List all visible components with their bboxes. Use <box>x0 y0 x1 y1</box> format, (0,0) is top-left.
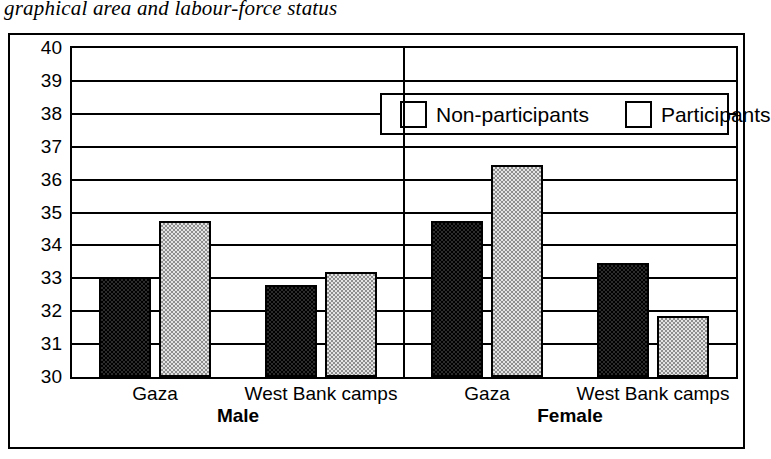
y-axis-tick-label: 37 <box>22 137 62 156</box>
group-label: Male <box>217 405 259 426</box>
chart-legend: Non-participants Participants <box>380 93 729 135</box>
bar <box>159 221 211 377</box>
light-swatch-icon <box>625 101 652 128</box>
category-label: Gaza <box>464 383 509 404</box>
y-axis-tick-label: 34 <box>22 235 62 254</box>
y-axis-tick-label: 30 <box>22 367 62 386</box>
y-axis: 4039383736353433323130 <box>14 46 62 379</box>
bar <box>657 316 709 377</box>
figure-caption: graphical area and labour-force status <box>4 0 337 21</box>
figure-frame: 4039383736353433323130 GazaWest Bank cam… <box>8 33 745 449</box>
category-labels: GazaWest Bank campsGazaWest Bank camps <box>70 383 738 405</box>
panel-divider <box>403 48 405 377</box>
category-label: Gaza <box>132 383 177 404</box>
bar <box>431 221 483 377</box>
bar <box>265 285 317 377</box>
y-axis-tick-label: 39 <box>22 71 62 90</box>
legend-item-participants: Participants <box>625 95 771 133</box>
bar <box>491 165 543 377</box>
category-label: West Bank camps <box>577 383 730 404</box>
y-axis-tick-label: 33 <box>22 268 62 287</box>
category-label: West Bank camps <box>245 383 398 404</box>
legend-label: Non-participants <box>436 104 589 125</box>
bar <box>99 277 151 377</box>
y-axis-tick-label: 40 <box>22 38 62 57</box>
legend-item-non-participants: Non-participants <box>400 95 589 133</box>
group-label: Female <box>537 405 602 426</box>
y-axis-tick-label: 35 <box>22 203 62 222</box>
bar <box>597 263 649 377</box>
group-labels: MaleFemale <box>70 405 738 427</box>
y-axis-tick-label: 36 <box>22 170 62 189</box>
bar <box>325 272 377 377</box>
legend-label: Participants <box>661 104 771 125</box>
y-axis-tick-label: 38 <box>22 104 62 123</box>
y-axis-tick-label: 32 <box>22 301 62 320</box>
y-axis-tick-label: 31 <box>22 334 62 353</box>
